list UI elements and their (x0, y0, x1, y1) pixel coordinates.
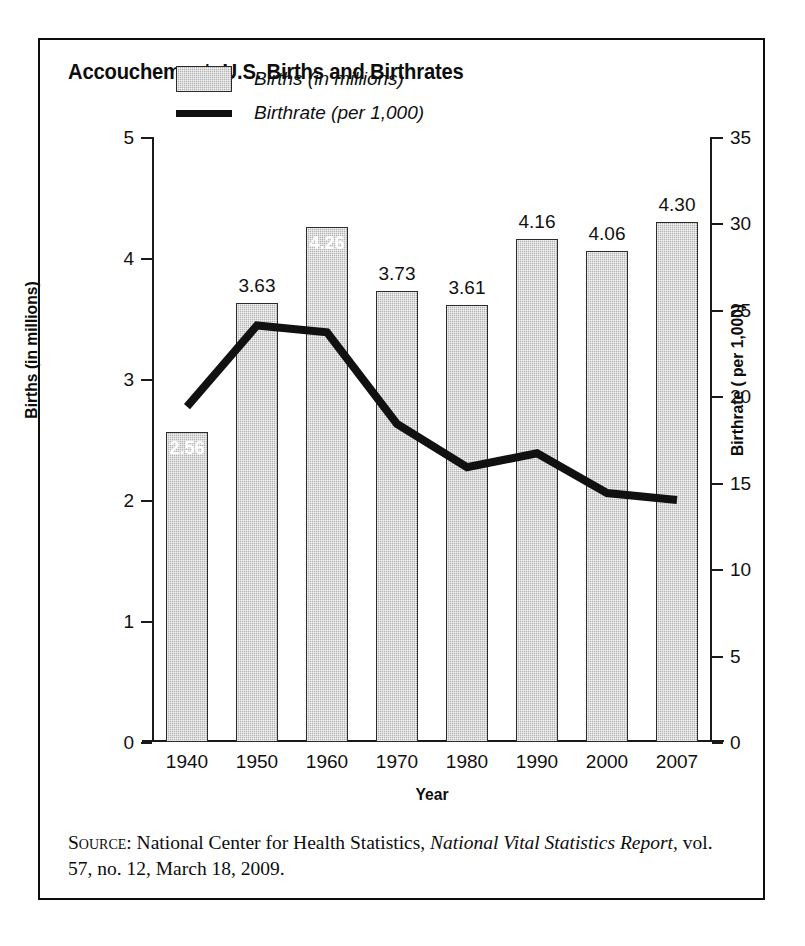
bar-value-label: 2.56 (169, 439, 204, 457)
legend: Births (in millions) Birthrate (per 1,00… (176, 62, 424, 130)
plot-area: 543210 35302520151050 2.563.634.263.733.… (152, 137, 712, 742)
source-note: Source: National Center for Health Stati… (68, 830, 728, 883)
y-axis-left-ticklabel: 2 (123, 491, 134, 510)
x-axis-ticklabel: 1940 (166, 751, 208, 773)
x-axis-ticklabel: 1950 (236, 751, 278, 773)
bar (586, 251, 628, 742)
x-axis-ticklabel: 1970 (376, 751, 418, 773)
source-label: Source: (68, 832, 132, 853)
legend-item-birthrate: Birthrate (per 1,000) (176, 96, 424, 130)
line-swatch-icon (176, 110, 232, 117)
y-axis-right-spine (710, 137, 712, 742)
bar (516, 239, 558, 742)
bar-value-label: 4.30 (659, 195, 696, 214)
legend-label-births: Births (in millions) (254, 68, 404, 90)
x-axis-ticklabel: 1990 (516, 751, 558, 773)
y-axis-left-ticklabel: 3 (123, 370, 134, 389)
y-axis-left-title: Births (in millions) (22, 258, 42, 442)
bar (656, 222, 698, 742)
y-axis-right-ticklabel: 5 (730, 646, 741, 665)
bar-value-label: 3.73 (379, 264, 416, 283)
y-axis-left-tick (141, 500, 152, 502)
x-axis-ticklabel: 1980 (446, 751, 488, 773)
x-axis-title: Year (174, 785, 689, 805)
y-axis-right-ticklabel: 35 (730, 128, 751, 147)
x-axis-ticklabel: 1960 (306, 751, 348, 773)
y-axis-right-tick (712, 396, 723, 398)
y-axis-right-ticklabel: 25 (730, 300, 751, 319)
source-publication-title: National Vital Statistics Report (430, 832, 673, 853)
bar (446, 305, 488, 742)
x-axis-ticklabel: 2007 (656, 751, 698, 773)
y-axis-right-ticklabel: 0 (730, 733, 741, 752)
bar-swatch-icon (176, 66, 232, 92)
bar-value-label: 4.26 (309, 234, 344, 252)
y-axis-left-spine (152, 137, 154, 742)
bar-value-label: 4.16 (519, 212, 556, 231)
y-axis-right-tick (712, 569, 723, 571)
y-axis-right-tick (712, 656, 723, 658)
x-axis-spine (142, 740, 724, 742)
bar: 2.56 (166, 432, 208, 742)
y-axis-right-tick (712, 483, 723, 485)
y-axis-right-tick (712, 137, 723, 139)
legend-swatch-wrap (176, 110, 232, 117)
figure-frame: Accouchement: U.S. Births and Birthrates… (38, 38, 765, 900)
y-axis-right-tick (712, 310, 723, 312)
bar-value-label: 4.06 (589, 224, 626, 243)
y-axis-right-ticklabel: 30 (730, 214, 751, 233)
legend-label-birthrate: Birthrate (per 1,000) (254, 102, 424, 124)
bar: 4.26 (306, 227, 348, 742)
y-axis-left-tick (141, 621, 152, 623)
y-axis-left-ticklabel: 1 (123, 612, 134, 631)
source-text-before: National Center for Health Statistics, (132, 832, 430, 853)
bar-value-label: 3.61 (449, 278, 486, 297)
bar-value-label: 3.63 (239, 276, 276, 295)
legend-item-births: Births (in millions) (176, 62, 424, 96)
y-axis-left-tick (141, 258, 152, 260)
y-axis-right-tick (712, 223, 723, 225)
y-axis-right-ticklabel: 15 (730, 473, 751, 492)
x-axis-ticklabel: 2000 (586, 751, 628, 773)
y-axis-left-tick (141, 137, 152, 139)
bar (236, 303, 278, 742)
y-axis-left-ticklabel: 5 (123, 128, 134, 147)
y-axis-left-ticklabel: 0 (123, 733, 134, 752)
y-axis-left-tick (141, 379, 152, 381)
y-axis-right-tick (712, 742, 723, 744)
legend-swatch-wrap (176, 66, 232, 92)
y-axis-right-ticklabel: 10 (730, 560, 751, 579)
y-axis-left-ticklabel: 4 (123, 249, 134, 268)
y-axis-left-tick (141, 742, 152, 744)
bar (376, 291, 418, 742)
y-axis-right-ticklabel: 20 (730, 387, 751, 406)
